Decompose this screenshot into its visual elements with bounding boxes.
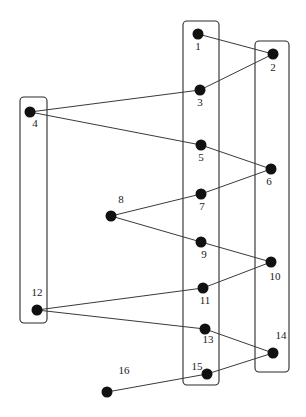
node-3 [195, 85, 206, 96]
node-label-13: 13 [203, 333, 215, 345]
node-label-9: 9 [201, 248, 207, 260]
node-labels: 12345678910111213141516 [32, 40, 288, 376]
node-label-15: 15 [192, 360, 204, 372]
node-label-2: 2 [270, 61, 276, 73]
edge-9-10 [201, 242, 271, 262]
edge-5-6 [201, 145, 271, 169]
node-10 [266, 257, 277, 268]
node-11 [198, 283, 209, 294]
edge-6-7 [201, 169, 271, 194]
node-6 [266, 164, 277, 175]
node-label-11: 11 [200, 294, 211, 306]
edge-4-5 [30, 112, 201, 145]
node-2 [268, 49, 279, 60]
node-label-10: 10 [270, 270, 282, 282]
node-4 [25, 107, 36, 118]
edge-14-15 [207, 353, 273, 374]
node-label-7: 7 [199, 200, 205, 212]
node-label-6: 6 [266, 175, 272, 187]
edges [30, 34, 273, 392]
node-label-12: 12 [32, 286, 43, 298]
node-label-16: 16 [119, 364, 131, 376]
node-label-8: 8 [118, 193, 124, 205]
edge-12-13 [37, 310, 205, 329]
node-8 [106, 211, 117, 222]
node-14 [268, 348, 279, 359]
node-16 [102, 387, 113, 398]
edge-15-16 [107, 374, 207, 392]
node-15 [202, 369, 213, 380]
node-label-5: 5 [198, 151, 204, 163]
group-box-right [255, 41, 289, 372]
node-7 [196, 189, 207, 200]
node-label-3: 3 [197, 96, 203, 108]
edge-8-9 [111, 216, 201, 242]
edge-11-12 [37, 288, 203, 310]
node-9 [196, 237, 207, 248]
edge-13-14 [205, 329, 273, 353]
group-boxes [20, 21, 289, 385]
nodes [25, 29, 279, 398]
node-label-1: 1 [195, 40, 201, 52]
node-label-14: 14 [276, 329, 288, 341]
node-12 [32, 305, 43, 316]
edge-10-11 [203, 262, 271, 288]
edge-3-4 [30, 90, 200, 112]
edge-2-3 [200, 54, 273, 90]
graph-diagram: 12345678910111213141516 [0, 0, 306, 417]
node-5 [196, 140, 207, 151]
node-1 [193, 29, 204, 40]
node-label-4: 4 [32, 117, 38, 129]
edge-1-2 [198, 34, 273, 54]
edge-7-8 [111, 194, 201, 216]
